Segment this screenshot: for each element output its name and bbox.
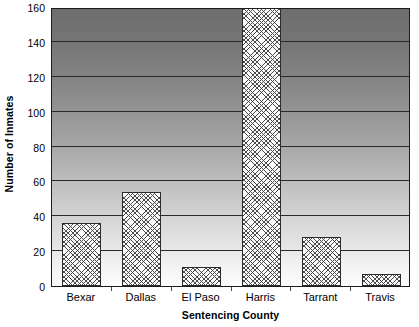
x-axis-tick-label: Travis xyxy=(365,290,395,304)
x-axis-tick-label: Tarrant xyxy=(303,290,337,304)
x-axis-tick-label: Bexar xyxy=(67,290,96,304)
bar xyxy=(182,267,221,286)
y-axis-title-label: Number of Inmates xyxy=(3,95,15,192)
y-axis-tick-label: 120 xyxy=(27,73,45,84)
x-axis-tick-label: Dallas xyxy=(125,290,156,304)
y-axis-tick-label: 80 xyxy=(33,142,45,153)
y-axis-tick-label: 140 xyxy=(27,38,45,49)
x-axis-tick-label: El Paso xyxy=(182,290,220,304)
x-axis-tick-labels: BexarDallasEl PasoHarrisTarrantTravis xyxy=(51,290,410,306)
bar xyxy=(62,223,101,286)
y-axis-tick-label: 160 xyxy=(27,3,45,14)
y-axis-title: Number of Inmates xyxy=(0,0,18,287)
bar xyxy=(302,237,341,286)
x-axis-title: Sentencing County xyxy=(51,309,410,321)
y-axis-tick-label: 40 xyxy=(33,212,45,223)
y-axis-tick-label: 0 xyxy=(39,282,45,293)
y-axis-tick-label: 60 xyxy=(33,177,45,188)
bars-layer xyxy=(52,9,409,286)
x-axis-tick-label: Harris xyxy=(246,290,275,304)
y-axis-tick-label: 20 xyxy=(33,247,45,258)
bar xyxy=(242,8,281,286)
bar-chart-figure: Number of Inmates 020406080100120140160 … xyxy=(0,0,419,327)
y-axis-tick-label: 100 xyxy=(27,107,45,118)
bar xyxy=(362,274,401,286)
plot-area xyxy=(51,8,410,287)
y-axis-tick-labels: 020406080100120140160 xyxy=(18,0,49,295)
bar xyxy=(122,192,161,286)
